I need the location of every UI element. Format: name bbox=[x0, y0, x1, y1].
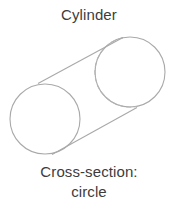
hidden-arc-dashed bbox=[95, 38, 138, 107]
top-tangent-line bbox=[38, 37, 123, 83]
cross-section-value: circle bbox=[0, 182, 178, 202]
cylinder-diagram bbox=[0, 28, 178, 162]
front-circle bbox=[10, 84, 80, 154]
cross-section-caption: Cross-section: circle bbox=[0, 162, 178, 202]
cross-section-label: Cross-section: bbox=[0, 162, 178, 182]
page-title: Cylinder bbox=[0, 6, 178, 24]
cylinder-figure: Cylinder Cross-section: circle bbox=[0, 0, 178, 216]
